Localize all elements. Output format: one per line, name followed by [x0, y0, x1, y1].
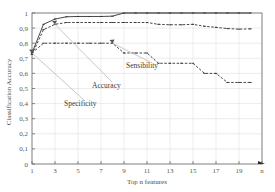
- x-tick-label: 17: [213, 167, 221, 175]
- data-series: [31, 13, 252, 82]
- x-tick-label: 5: [76, 167, 80, 175]
- y-tick-label: 0,7: [19, 55, 28, 63]
- y-tick-label: 0: [25, 161, 29, 169]
- y-tick-label: 1: [25, 10, 29, 18]
- x-tick-label: 3: [53, 167, 57, 175]
- y-tick-label: 0,9: [19, 25, 28, 33]
- leader-arrowhead-sensibility: [110, 39, 115, 43]
- classification-accuracy-line-chart: 135791113151719n 00,10,20,30,40,50,60,70…: [0, 0, 275, 192]
- y-tick-label: 0,8: [19, 40, 28, 48]
- x-axis-arrowhead: [258, 161, 265, 164]
- y-tick-label: 0,1: [19, 145, 28, 153]
- series-line-specificity: [32, 13, 251, 53]
- x-tick-label: 9: [122, 167, 126, 175]
- annotation-sensibility: Sensibility: [126, 61, 158, 70]
- x-tick-label: n: [260, 167, 264, 175]
- x-tick-label: 7: [99, 167, 103, 175]
- y-axis-title: Classification Accuracy: [5, 58, 13, 125]
- y-axis-tick-labels: 00,10,20,30,40,50,60,70,80,91: [19, 10, 28, 169]
- x-tick-label: 11: [144, 167, 151, 175]
- x-axis-title: Top n features: [127, 178, 167, 186]
- y-tick-label: 0,6: [19, 70, 28, 78]
- x-tick-label: 13: [167, 167, 175, 175]
- chart-figure: 135791113151719n 00,10,20,30,40,50,60,70…: [0, 0, 275, 192]
- y-tick-label: 0,2: [19, 130, 28, 138]
- y-tick-label: 0,3: [19, 115, 28, 123]
- x-tick-label: 1: [30, 167, 34, 175]
- x-tick-label: 15: [190, 167, 198, 175]
- leader-line-specificity: [32, 53, 84, 100]
- y-tick-label: 0,4: [19, 100, 28, 108]
- y-axis-ticks: [32, 13, 35, 164]
- y-tick-label: 0,5: [19, 85, 28, 93]
- x-tick-label: 19: [236, 167, 244, 175]
- annotation-specificity: Specificity: [64, 99, 97, 108]
- x-axis-tick-labels: 135791113151719n: [30, 167, 264, 175]
- series-line-accuracy: [32, 23, 251, 55]
- x-axis-ticks: [32, 161, 262, 164]
- annotation-accuracy: Accuracy: [92, 81, 121, 90]
